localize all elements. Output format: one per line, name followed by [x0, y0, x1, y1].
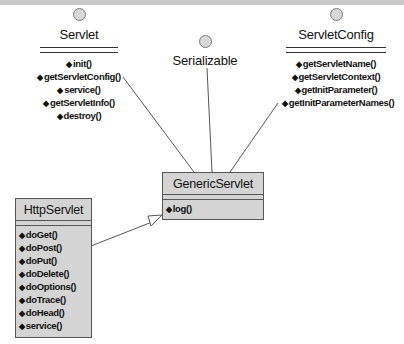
operation: ◆init() — [36, 58, 122, 71]
interface-name: ServletConfig — [282, 27, 390, 42]
operation: ◆getServletContext() — [282, 71, 390, 84]
class-genericservlet[interactable]: GenericServlet ◆log() — [162, 172, 264, 220]
operation-icon: ◆ — [57, 86, 63, 95]
operation: ◆doGet() — [19, 229, 88, 242]
operation: ◆getInitParameterNames() — [282, 97, 390, 110]
compartment-divider — [40, 47, 118, 53]
interface-name: Serializable — [160, 53, 250, 68]
operation: ◆doDelete() — [19, 268, 88, 281]
operation: ◆service() — [36, 84, 122, 97]
class-name: HttpServlet — [16, 199, 91, 221]
operation-icon: ◆ — [19, 283, 25, 292]
operations-list: ◆init() ◆getServletConfig() ◆service() ◆… — [36, 58, 122, 123]
operation-icon: ◆ — [282, 99, 288, 108]
operation: ◆getServletInfo() — [36, 97, 122, 110]
operation-icon: ◆ — [19, 231, 25, 240]
interface-lollipop-icon — [73, 8, 86, 21]
operation: ◆service() — [19, 320, 88, 333]
interface-serializable[interactable]: Serializable — [160, 35, 250, 68]
generalization-line — [91, 222, 152, 246]
operation: ◆doOptions() — [19, 281, 88, 294]
compartment-divider — [286, 47, 386, 53]
operation: ◆doTrace() — [19, 294, 88, 307]
operation-icon: ◆ — [166, 205, 172, 214]
operation-icon: ◆ — [292, 73, 298, 82]
operation-icon: ◆ — [19, 244, 25, 253]
interface-lollipop-icon — [330, 8, 343, 21]
class-name: GenericServlet — [163, 173, 263, 195]
operation: ◆destroy() — [36, 110, 122, 123]
interface-servlet[interactable]: Servlet ◆init() ◆getServletConfig() ◆ser… — [36, 8, 122, 123]
serializable-realization-line — [207, 68, 212, 172]
operation-icon: ◆ — [19, 270, 25, 279]
interface-servletconfig[interactable]: ServletConfig ◆getServletName() ◆getServ… — [282, 8, 390, 110]
operation: ◆doHead() — [19, 307, 88, 320]
operation-icon: ◆ — [66, 60, 72, 69]
operation: ◆getInitParameter() — [282, 84, 390, 97]
operations-list: ◆log() — [163, 200, 263, 219]
operation-icon: ◆ — [19, 257, 25, 266]
class-httpservlet[interactable]: HttpServlet ◆doGet() ◆doPost() ◆doPut() … — [15, 198, 92, 338]
operation: ◆getServletConfig() — [36, 71, 122, 84]
servletconfig-realization-line — [230, 103, 278, 172]
operation-icon: ◆ — [19, 296, 25, 305]
interface-name: Servlet — [36, 27, 122, 42]
operation-icon: ◆ — [296, 60, 302, 69]
operations-list: ◆doGet() ◆doPost() ◆doPut() ◆doDelete() … — [16, 226, 91, 337]
operation-icon: ◆ — [19, 322, 25, 331]
operation: ◆doPut() — [19, 255, 88, 268]
operation-icon: ◆ — [295, 86, 301, 95]
operation-icon: ◆ — [37, 73, 43, 82]
interface-lollipop-icon — [199, 35, 212, 48]
operation-icon: ◆ — [43, 99, 49, 108]
operation-icon: ◆ — [57, 112, 63, 121]
servlet-realization-line — [123, 77, 194, 172]
operation-icon: ◆ — [19, 309, 25, 318]
operation: ◆doPost() — [19, 242, 88, 255]
operations-list: ◆getServletName() ◆getServletContext() ◆… — [282, 58, 390, 110]
operation: ◆getServletName() — [282, 58, 390, 71]
operation: ◆log() — [166, 203, 260, 216]
generalization-arrowhead-icon — [148, 215, 162, 226]
